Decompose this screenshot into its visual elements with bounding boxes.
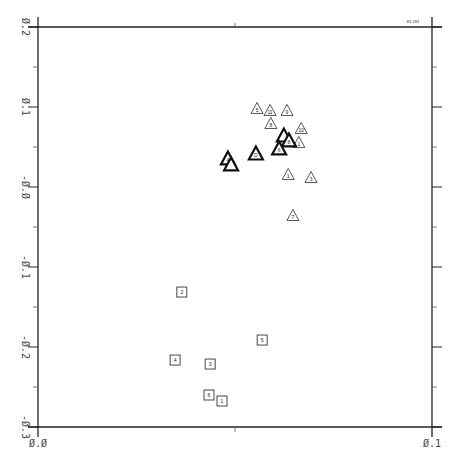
y-tick-label: Ø.1 [20, 98, 31, 116]
triangle-marker: 3 [305, 172, 317, 183]
x-axis-tick-labels: Ø.ØØ.1 [29, 438, 441, 449]
square-marker: 6 [204, 390, 214, 400]
scatter-chart: Ø.2Ø.1-Ø.Ø-Ø.1-Ø.2-Ø.3 Ø.ØØ.1 83-284 511… [0, 0, 457, 461]
triangle-marker: 5 [251, 102, 263, 113]
point-label: 3 [310, 176, 313, 182]
point-label: 1 [221, 398, 224, 404]
point-label: 4 [174, 357, 177, 363]
y-tick-label: -Ø.Ø [20, 175, 31, 199]
axis-ticks [28, 23, 442, 432]
point-label: 5 [261, 337, 264, 343]
corner-code-label: 83-284 [407, 19, 420, 24]
triangle-marker: 9 [281, 104, 293, 115]
plot-frame [28, 17, 442, 437]
point-label: 9 [286, 109, 289, 115]
point-label: 6 [278, 147, 281, 153]
y-axis-tick-labels: Ø.2Ø.1-Ø.Ø-Ø.1-Ø.2-Ø.3 [20, 18, 31, 439]
triangle-marker: 1 [282, 168, 294, 179]
point-label: 1 [287, 173, 290, 179]
y-tick-label: -Ø.2 [20, 335, 31, 359]
point-label: 5 [256, 107, 259, 113]
point-label: D [254, 152, 258, 158]
x-tick-label: Ø.Ø [29, 438, 47, 449]
point-label: 3 [209, 361, 212, 367]
triangle-marker: 8 [265, 118, 277, 129]
point-label: 8 [288, 139, 291, 145]
square-marker: 3 [205, 359, 215, 369]
square-marker: 2 [177, 287, 187, 297]
point-label: 10 [298, 127, 304, 133]
point-label: 11 [267, 109, 272, 115]
point-label: 8 [269, 122, 272, 128]
y-tick-label: -Ø.1 [20, 255, 31, 279]
square-marker: 5 [257, 335, 267, 345]
triangle-marker: 10 [295, 122, 307, 133]
y-tick-label: Ø.2 [20, 18, 31, 36]
triangle-bold-marker: D [249, 147, 263, 160]
y-tick-label: -Ø.3 [20, 415, 31, 439]
point-label: 7 [292, 214, 295, 220]
point-label: 1 [297, 141, 300, 147]
x-tick-label: Ø.1 [423, 438, 441, 449]
triangle-marker: 11 [264, 104, 276, 115]
data-points: 5119810113786D4254361 [170, 102, 317, 406]
point-label: 6 [208, 392, 211, 398]
square-marker: 4 [170, 355, 180, 365]
triangle-marker: 7 [287, 210, 299, 221]
square-marker: 1 [217, 396, 227, 406]
point-label: 2 [180, 289, 183, 295]
